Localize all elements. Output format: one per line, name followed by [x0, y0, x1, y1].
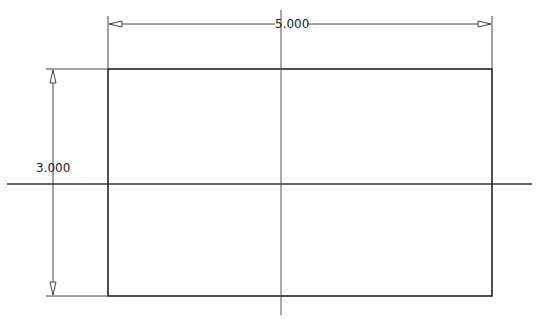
width-dimension-label[interactable]: 5.000 [275, 17, 309, 31]
sketch-canvas[interactable]: 5.000 3.000 [0, 0, 539, 319]
arrow-left-icon [109, 21, 122, 27]
arrow-up-icon [50, 70, 56, 83]
arrow-right-icon [478, 21, 491, 27]
width-dimension[interactable]: 5.000 [109, 17, 491, 31]
sketch-rectangle[interactable] [108, 69, 492, 296]
arrow-down-icon [50, 282, 56, 295]
height-dimension-label[interactable]: 3.000 [36, 161, 70, 175]
height-dimension[interactable]: 3.000 [36, 70, 70, 295]
